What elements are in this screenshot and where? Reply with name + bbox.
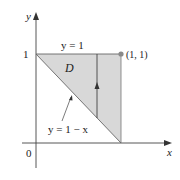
label-pointer-arrow-icon bbox=[69, 95, 73, 101]
top-line-label: y = 1 bbox=[61, 39, 84, 51]
y-axis-label: y bbox=[25, 10, 31, 22]
region-label: D bbox=[64, 61, 74, 75]
point-1-1 bbox=[118, 51, 123, 56]
x-axis-label: x bbox=[166, 146, 172, 158]
origin-label: 0 bbox=[26, 147, 32, 159]
y-axis-arrow-icon bbox=[33, 12, 39, 20]
point-label: (1, 1) bbox=[126, 49, 148, 61]
region-diagram: y 1 0 x y = 1 D (1, 1) y = 1 − x bbox=[0, 0, 180, 180]
label-pointer-line bbox=[62, 97, 71, 121]
diagonal-label: y = 1 − x bbox=[48, 123, 88, 135]
y-tick-label: 1 bbox=[23, 48, 29, 60]
